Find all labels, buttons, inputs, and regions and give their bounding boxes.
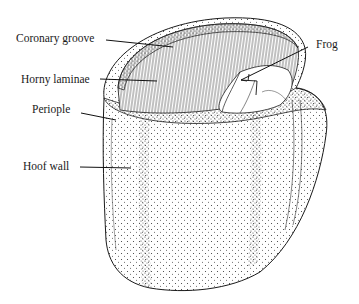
hoof-illustration — [0, 0, 359, 304]
label-hoof-wall: Hoof wall — [23, 161, 69, 173]
label-frog: Frog — [316, 39, 338, 51]
label-coronary-groove: Coronary groove — [16, 33, 94, 45]
label-horny-laminae: Horny laminae — [21, 74, 90, 86]
label-periople: Periople — [32, 104, 70, 116]
hoof-diagram: Coronary groove Horny laminae Periople H… — [0, 0, 359, 304]
